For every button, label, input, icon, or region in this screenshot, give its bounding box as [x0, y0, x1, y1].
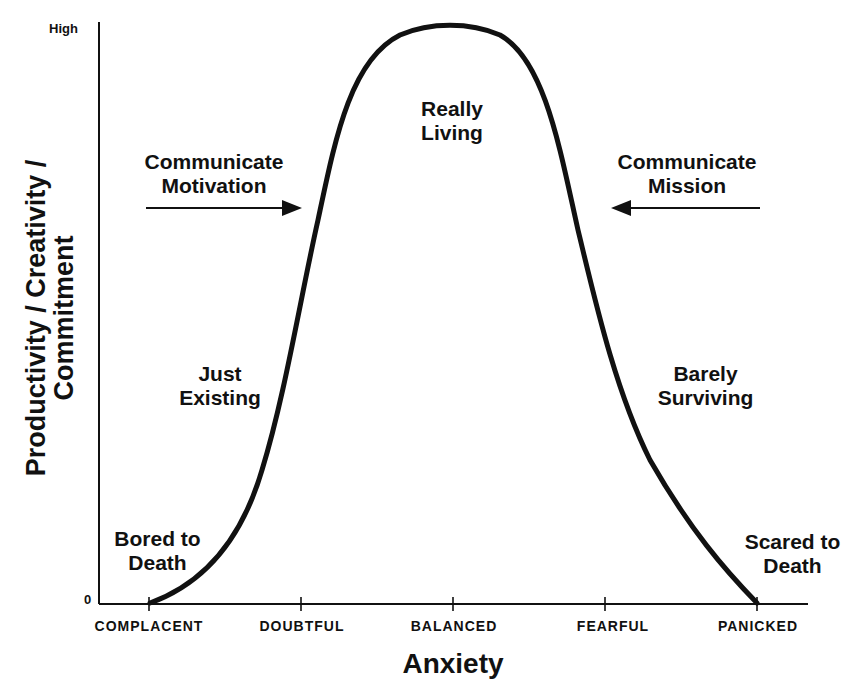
x-tick-balanced: BALANCED: [411, 618, 498, 634]
annotation-communicate-mission: Communicate Mission: [597, 150, 777, 198]
arrow-right-icon: [146, 200, 302, 216]
annotation-communicate-motivation: Communicate Motivation: [124, 150, 304, 198]
arrow-left-icon: [611, 200, 760, 216]
y-tick-high: High: [49, 21, 78, 36]
x-tick-doubtful: DOUBTFUL: [260, 618, 345, 634]
x-axis-title: Anxiety: [0, 648, 856, 680]
annotation-scared-to-death: Scared to Death: [730, 530, 855, 578]
x-tick-panicked: PANICKED: [718, 618, 798, 634]
annotation-just-existing: Just Existing: [165, 362, 275, 410]
annotation-really-living: Really Living: [392, 97, 512, 145]
annotation-barely-surviving: Barely Surviving: [643, 362, 768, 410]
y-tick-zero: 0: [84, 592, 91, 607]
x-tick-complacent: COMPLACENT: [95, 618, 204, 634]
y-axis-title: Productivity / Creativity / Commitment: [22, 160, 78, 477]
x-tick-fearful: FEARFUL: [577, 618, 649, 634]
annotation-bored-to-death: Bored to Death: [100, 527, 215, 575]
